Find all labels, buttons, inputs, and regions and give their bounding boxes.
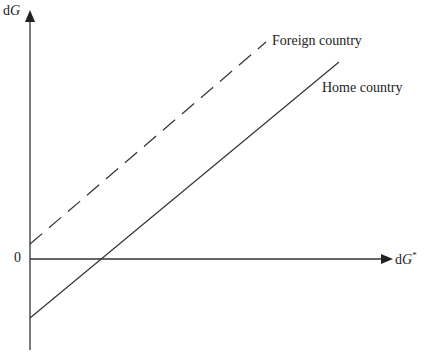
origin-label: 0	[14, 250, 21, 266]
foreign-country-label: Foreign country	[272, 33, 362, 49]
x-axis-label: dG*	[395, 250, 417, 268]
home-country-label: Home country	[322, 80, 402, 96]
foreign-country-line	[30, 42, 266, 244]
home-country-line	[30, 62, 339, 318]
y-axis-label: dG	[3, 3, 20, 19]
y-axis-arrow-icon	[25, 10, 35, 22]
x-axis-arrow-icon	[381, 254, 393, 264]
diagram-canvas	[0, 0, 429, 363]
